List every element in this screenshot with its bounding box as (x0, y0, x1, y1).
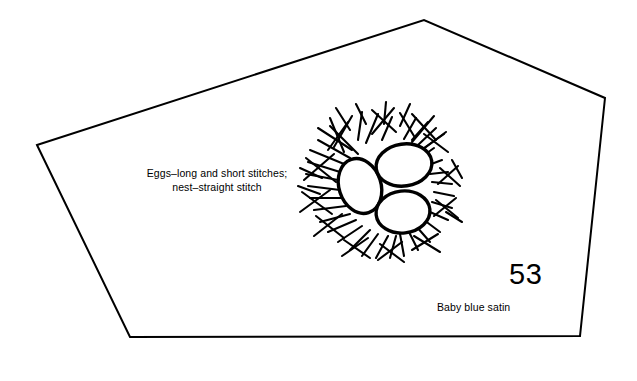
embroidery-plate-illustration (0, 0, 637, 381)
stitch-instruction-caption: Eggs–long and short stitches; nest–strai… (137, 166, 297, 194)
fabric-caption: Baby blue satin (437, 300, 527, 314)
plate-number: 53 (509, 258, 542, 290)
stitch-caption-line-1: Eggs–long and short stitches; (147, 167, 288, 179)
stitch-caption-line-2: nest–straight stitch (172, 181, 262, 193)
